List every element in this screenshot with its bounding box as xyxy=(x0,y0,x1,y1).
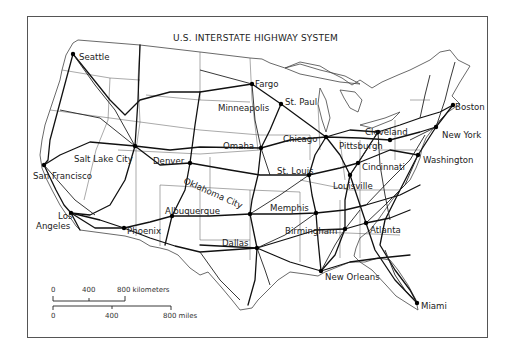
city-label: Salt Lake City xyxy=(74,154,133,164)
city-label: New Orleans xyxy=(325,272,380,282)
city-marker-icon xyxy=(250,82,254,86)
city-label: Cincinnati xyxy=(362,162,405,172)
city-label: Louisville xyxy=(333,181,373,191)
city-label: Miami xyxy=(421,301,447,311)
city-marker-icon xyxy=(356,161,360,165)
city-marker-icon xyxy=(122,226,126,230)
city-labels-layer: SeattleSan FranciscoLosAngelesSalt Lake … xyxy=(0,0,511,352)
city-label: Fargo xyxy=(255,79,279,89)
city-marker-icon xyxy=(314,211,318,215)
city-label: Birmingham xyxy=(285,226,337,236)
city-marker-icon xyxy=(188,161,192,165)
city-marker-icon xyxy=(248,212,252,216)
city-marker-icon xyxy=(416,153,420,157)
city-label: LosAngeles xyxy=(36,211,73,231)
city-marker-icon xyxy=(343,227,347,231)
city-marker-icon xyxy=(319,269,323,273)
city-label: Phoenix xyxy=(127,226,161,236)
city-label: Dallas xyxy=(222,238,249,248)
city-marker-icon xyxy=(434,125,438,129)
city-marker-icon xyxy=(415,301,419,305)
scale-label: 800 miles xyxy=(163,312,198,320)
city-marker-icon xyxy=(71,52,75,56)
city-label: Washington xyxy=(423,155,474,165)
city-marker-icon xyxy=(388,138,392,142)
city-marker-icon xyxy=(279,102,283,106)
city-label: Albuquerque xyxy=(165,206,220,216)
scale-label: 800 kilometers xyxy=(117,286,170,294)
city-label: Minneapolis xyxy=(218,103,270,113)
city-label: St. Paul xyxy=(285,97,317,107)
scale-label: 400 xyxy=(82,286,95,294)
city-label: Seattle xyxy=(79,52,109,62)
city-marker-icon xyxy=(42,163,46,167)
city-marker-icon xyxy=(364,221,368,225)
city-label: Pittsburgh xyxy=(339,141,383,151)
city-marker-icon xyxy=(324,135,328,139)
city-label: San Francisco xyxy=(33,171,92,181)
scale-label: 0 xyxy=(51,286,55,294)
scale-label: 400 xyxy=(105,312,118,320)
city-marker-icon xyxy=(348,173,352,177)
scale-label: 0 xyxy=(51,312,55,320)
city-label: New York xyxy=(442,130,481,140)
city-marker-icon xyxy=(133,144,137,148)
city-label: Omaha xyxy=(223,141,254,151)
city-marker-icon xyxy=(255,246,259,250)
city-label: Boston xyxy=(455,102,485,112)
city-label: Cleveland xyxy=(365,127,408,137)
city-label: Denver xyxy=(153,156,185,166)
city-marker-icon xyxy=(259,146,263,150)
city-label: St. Louis xyxy=(277,166,314,176)
city-label: Chicago xyxy=(283,134,318,144)
city-label: Memphis xyxy=(270,203,309,213)
city-label: Atlanta xyxy=(370,225,401,235)
